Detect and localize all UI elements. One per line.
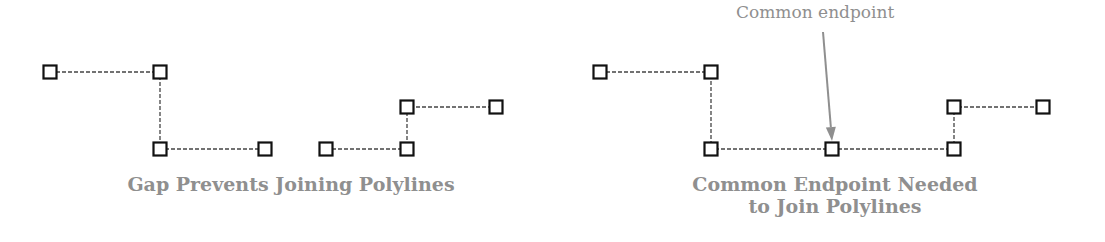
vertex-square-icon: [401, 143, 414, 156]
vertex-square-icon: [320, 143, 333, 156]
polyline-vertices: [44, 66, 1050, 156]
vertex-square-icon: [948, 143, 961, 156]
vertex-square-icon: [44, 66, 57, 79]
vertex-square-icon: [154, 143, 167, 156]
left-caption: Gap Prevents Joining Polylines: [121, 173, 461, 195]
left-polyline-a-line: [50, 72, 265, 149]
polyline-segments: [50, 72, 1043, 149]
callout-arrow: [823, 32, 836, 141]
vertex-square-icon: [154, 66, 167, 79]
vertex-square-icon: [1037, 101, 1050, 114]
right-polyline-b-line: [832, 107, 1043, 149]
vertex-square-icon: [259, 143, 272, 156]
vertex-square-icon: [826, 143, 839, 156]
vertex-square-icon: [948, 101, 961, 114]
vertex-square-icon: [705, 143, 718, 156]
vertex-square-icon: [594, 66, 607, 79]
callout-arrow-shaft: [823, 32, 831, 127]
arrowhead-icon: [826, 127, 836, 141]
common-endpoint-label: Common endpoint: [736, 2, 894, 22]
vertex-square-icon: [705, 66, 718, 79]
right-caption: Common Endpoint Needed to Join Polylines: [625, 173, 1045, 217]
right-polyline-a-line: [600, 72, 832, 149]
vertex-square-icon: [401, 101, 414, 114]
right-caption-line1: Common Endpoint Needed: [625, 173, 1045, 195]
vertex-square-icon: [490, 101, 503, 114]
right-caption-line2: to Join Polylines: [625, 195, 1045, 217]
